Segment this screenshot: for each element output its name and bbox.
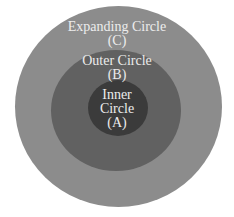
inner-circle-label-line2: Circle xyxy=(0,102,234,116)
outer-circle-label: Outer Circle xyxy=(0,54,234,68)
outer-circle-letter: (B) xyxy=(0,68,234,82)
inner-circle-letter: (A) xyxy=(0,116,234,130)
expanding-circle-letter: (C) xyxy=(0,34,234,48)
inner-circle-label-line1: Inner xyxy=(0,88,234,102)
expanding-circle-label: Expanding Circle xyxy=(0,20,234,34)
